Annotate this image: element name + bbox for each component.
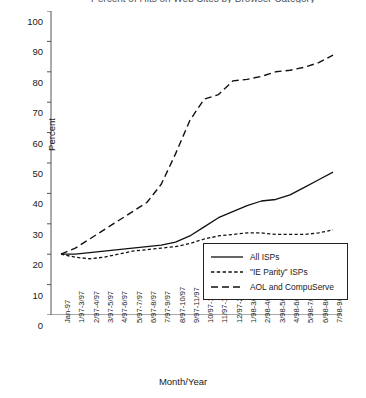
legend-swatch-dashed [210,282,244,292]
x-axis-title: Month/Year [0,376,366,387]
x-tick-label: 5/97-7/97 [136,291,144,323]
y-tick-label: 80 [17,78,43,88]
legend-item: "IE Parity" ISPs [210,264,341,279]
y-tick-label: 0 [17,321,43,331]
y-axis-title: Percent [46,95,57,175]
x-tick-label: 7/97-9/97 [164,291,172,323]
legend-label: All ISPs [250,252,279,262]
chart-title: Percent of Hits on Web Sites by Browser … [58,0,348,3]
legend-swatch-dotted [210,267,244,277]
chart-figure: Percent of Hits on Web Sites by Browser … [0,0,366,398]
y-tick-label: 60 [17,139,43,149]
legend-label: "IE Parity" ISPs [250,267,308,277]
x-tick-label: 2/97-4/97 [93,291,101,323]
legend-swatch-solid [210,252,244,262]
x-tick-label: Jan-97 [64,300,72,323]
x-tick-label: 1/97-3/97 [78,291,86,323]
x-tick-label: 9/97-11/97 [193,287,201,323]
y-tick-label: 40 [17,199,43,209]
x-tick-label: 6/97-8/97 [150,291,158,323]
y-tick-label: 10 [17,291,43,301]
x-tick-label: 8/97-10/97 [179,287,187,323]
y-tick-label: 30 [17,230,43,240]
y-tick-label: 20 [17,260,43,270]
series-line [61,55,333,254]
y-tick-label: 70 [17,108,43,118]
y-tick-label: 100 [17,17,43,27]
legend-label: AOL and CompuServe [250,282,334,292]
x-tick-label: 3/97-5/97 [107,291,115,323]
legend-item: AOL and CompuServe [210,279,341,294]
y-tick-label: 50 [17,169,43,179]
chart-legend: All ISPs "IE Parity" ISPs AOL and CompuS… [203,243,348,300]
x-tick-label: 4/97-6/97 [121,291,129,323]
legend-item: All ISPs [210,249,341,264]
y-tick-label: 90 [17,47,43,57]
